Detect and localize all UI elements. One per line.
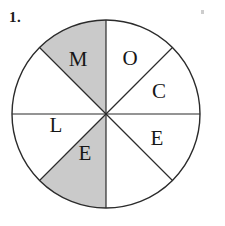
spoke-line-group xyxy=(12,20,200,208)
sector-letter: C xyxy=(152,79,166,103)
sector-letter: L xyxy=(50,113,63,137)
sector-letter: E xyxy=(151,126,164,150)
worksheet-canvas: 1. MOCEEL xyxy=(0,0,225,226)
sector-letter: M xyxy=(69,47,88,71)
sector-wheel-diagram: MOCEEL xyxy=(0,0,225,226)
stray-speck-mark xyxy=(201,10,204,14)
sector-letter: O xyxy=(122,46,137,70)
sector-letter: E xyxy=(79,141,92,165)
